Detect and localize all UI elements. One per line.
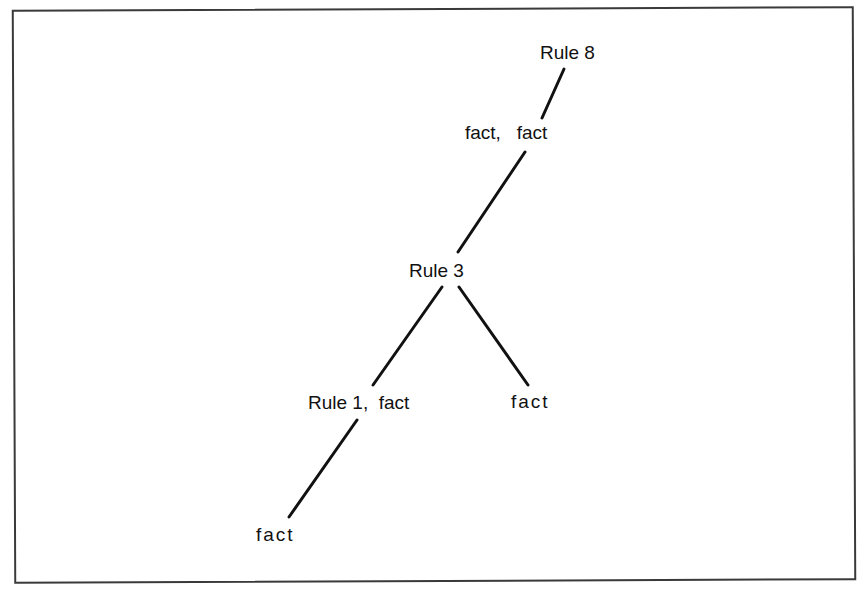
node-fact-fact: fact, fact [465, 123, 547, 142]
edge-rule8-to-facts [542, 69, 564, 118]
edge-rule3-to-fact-right [459, 287, 528, 385]
edge-rule3-to-rule1 [373, 287, 442, 385]
node-rule-3: Rule 3 [409, 261, 464, 280]
node-rule-1-fact: Rule 1, fact [308, 393, 409, 412]
node-fact-bottom: fact [256, 525, 295, 544]
node-rule-8: Rule 8 [540, 43, 595, 62]
edge-rule1-to-fact-bottom [289, 420, 357, 517]
tree-edges [0, 0, 862, 596]
node-fact-right: fact [511, 392, 550, 411]
edge-facts-to-rule3 [458, 152, 525, 252]
